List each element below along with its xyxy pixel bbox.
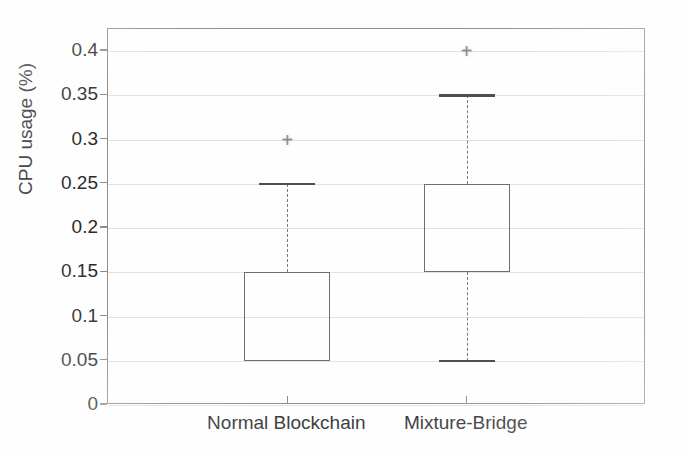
- x-tick-label: Mixture-Bridge: [404, 412, 528, 434]
- x-tick-mark: [466, 396, 467, 403]
- x-tick-mark: [287, 396, 288, 403]
- gridline: [108, 51, 644, 52]
- box: [244, 272, 330, 361]
- gridline: [108, 95, 644, 96]
- whisker-upper: [287, 184, 288, 273]
- y-tick-mark: [100, 138, 107, 139]
- boxplot-figure: ++ 00.050.10.150.20.250.30.350.4 Normal …: [0, 0, 687, 455]
- y-tick-label: 0.15: [0, 260, 98, 282]
- y-tick-label: 0: [0, 393, 98, 415]
- y-tick-mark: [100, 271, 107, 272]
- gridline: [108, 140, 644, 141]
- outlier-marker: +: [461, 41, 473, 61]
- gridline: [108, 272, 644, 273]
- whisker-cap-lower: [439, 360, 495, 362]
- y-tick-mark: [100, 226, 107, 227]
- whisker-lower: [467, 272, 468, 361]
- y-tick-label: 0.1: [0, 305, 98, 327]
- y-tick-mark: [100, 182, 107, 183]
- plot-area: ++: [107, 28, 645, 404]
- gridline: [108, 405, 644, 406]
- x-tick-label: Normal Blockchain: [207, 412, 365, 434]
- y-tick-mark: [100, 359, 107, 360]
- whisker-upper: [467, 95, 468, 184]
- whisker-cap-upper: [259, 183, 315, 185]
- box: [424, 184, 510, 273]
- y-tick-mark: [100, 49, 107, 50]
- gridline: [108, 317, 644, 318]
- y-tick-mark: [100, 94, 107, 95]
- outlier-marker: +: [281, 130, 293, 150]
- y-tick-label: 0.05: [0, 349, 98, 371]
- gridline: [108, 361, 644, 362]
- y-tick-mark: [100, 403, 107, 404]
- whisker-cap-upper: [439, 94, 495, 96]
- gridline: [108, 184, 644, 185]
- y-tick-mark: [100, 315, 107, 316]
- gridline: [108, 228, 644, 229]
- y-axis-title: CPU usage (%): [15, 19, 37, 239]
